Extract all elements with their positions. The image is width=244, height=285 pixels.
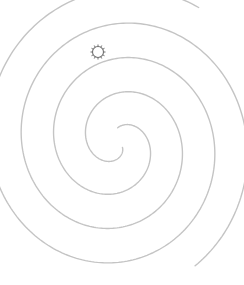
sun-gear-icon (91, 45, 106, 60)
marker-ring (93, 47, 104, 58)
spiral-arm-inner (0, 0, 215, 263)
spiral-diagram (0, 0, 244, 285)
